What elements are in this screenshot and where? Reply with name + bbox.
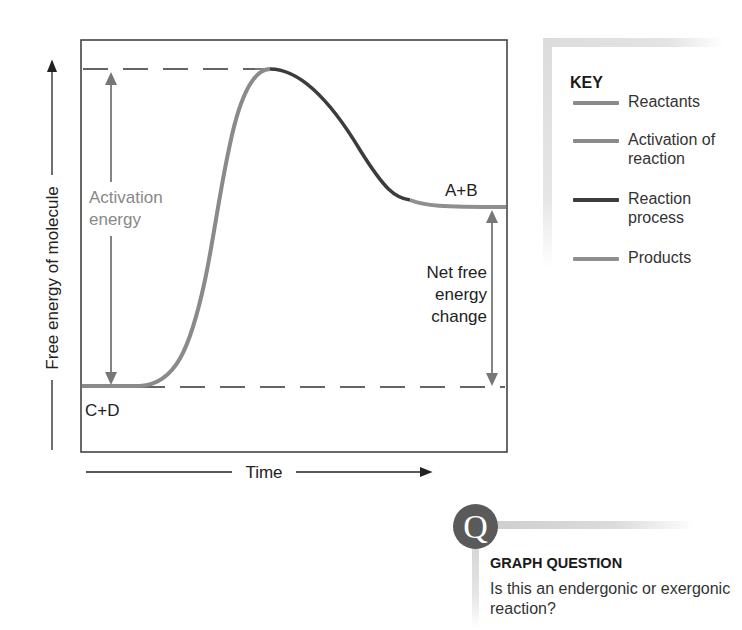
state-label-ab: A+B [445,181,478,200]
question-stem [472,548,479,628]
y-axis: Free energy of molecule [43,62,62,450]
legend-label: Reaction process [628,189,738,227]
net-free-energy-label-3: change [431,307,487,326]
x-axis-label: Time [245,463,282,482]
legend-swatch [573,198,619,202]
question-bar [496,521,696,529]
curve-activation [140,69,270,386]
question-text: Is this an endergonic or exergonic react… [490,579,740,619]
legend-label: Products [628,248,738,267]
activation-energy-arrow: Activation energy [89,72,163,385]
y-axis-label: Free energy of molecule [43,186,62,369]
x-axis: Time [86,463,430,482]
legend-border-top [543,38,723,47]
legend-item-reaction-process: Reaction process [573,189,738,227]
net-free-energy-label: Net free [427,263,487,282]
legend-item-activation: Activation of reaction [573,130,738,168]
net-free-energy-label-2: energy [435,285,487,304]
activation-energy-label-2: energy [89,210,141,229]
energy-diagram: Free energy of molecule Time Activation … [0,0,540,490]
legend-label: Reactants [628,92,738,111]
curve-reaction-process [270,69,410,200]
legend-swatch [573,257,619,261]
legend-label: Activation of reaction [628,130,738,168]
curve-products [410,200,506,207]
legend-title: KEY [570,74,603,92]
legend-swatch [573,101,619,105]
graph-question: Q GRAPH QUESTION Is this an endergonic o… [450,500,742,630]
state-label-cd: C+D [85,401,119,420]
legend-swatch [573,139,619,143]
activation-energy-label: Activation [89,188,163,207]
question-icon: Q [453,504,498,549]
legend-key: KEY Reactants Activation of reaction Rea… [543,38,742,278]
legend-item-reactants: Reactants [573,92,738,111]
legend-item-products: Products [573,248,738,267]
legend-border-left [543,38,552,268]
question-title: GRAPH QUESTION [490,555,622,571]
net-free-energy-arrow: Net free energy change [427,210,498,386]
plot-frame [81,40,507,452]
